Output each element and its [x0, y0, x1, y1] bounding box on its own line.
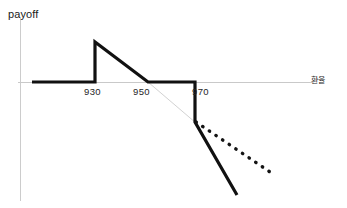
- payoff-curve: [32, 42, 237, 195]
- y-axis-label: payoff: [8, 9, 38, 20]
- chart-canvas: [0, 0, 347, 208]
- x-axis-label: 환율: [311, 77, 325, 85]
- x-tick-label-970: 970: [192, 87, 209, 97]
- guide-line: [148, 82, 196, 123]
- x-tick-label-930: 930: [84, 87, 101, 97]
- dotted-payoff-line: [196, 122, 273, 174]
- x-tick-label-950: 950: [133, 87, 150, 97]
- payoff-diagram-figure: payoff 환율 930 950 970: [0, 0, 347, 208]
